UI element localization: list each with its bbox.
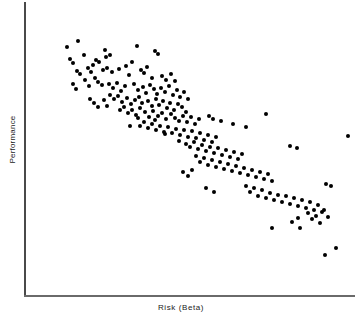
data-point [208, 145, 212, 149]
data-point [144, 91, 148, 95]
data-point [190, 129, 194, 133]
data-point [182, 90, 186, 94]
data-point [74, 87, 78, 91]
data-point [112, 97, 116, 101]
data-point [232, 150, 236, 154]
data-point [105, 66, 109, 70]
data-point [288, 144, 292, 148]
data-point [138, 124, 142, 128]
data-point [125, 96, 129, 100]
data-point [228, 155, 232, 159]
data-point [129, 102, 133, 106]
data-point [244, 184, 248, 188]
data-point [264, 112, 268, 116]
data-point [71, 82, 75, 86]
data-point [150, 104, 154, 108]
data-point [288, 202, 292, 206]
data-point [178, 95, 182, 99]
data-point [100, 83, 104, 87]
data-point [150, 122, 154, 126]
data-point [123, 84, 127, 88]
y-axis-label: Performance [8, 100, 17, 180]
data-point [156, 52, 160, 56]
data-point [166, 125, 170, 129]
data-point [192, 140, 196, 144]
data-point [318, 221, 322, 225]
data-point [280, 200, 284, 204]
data-point [312, 208, 316, 212]
data-point [145, 65, 149, 69]
data-point [182, 128, 186, 132]
data-point [323, 253, 327, 257]
data-point [186, 135, 190, 139]
data-point [165, 106, 169, 110]
data-point [296, 216, 300, 220]
data-point [136, 116, 140, 120]
data-point [256, 194, 260, 198]
data-point [322, 208, 326, 212]
data-point [189, 115, 193, 119]
data-point [92, 101, 96, 105]
data-point [314, 214, 318, 218]
data-point [193, 122, 197, 126]
data-point [76, 39, 80, 43]
data-point [196, 147, 200, 151]
data-point [244, 125, 248, 129]
data-point [270, 179, 274, 183]
data-point [198, 131, 202, 135]
data-point [272, 198, 276, 202]
data-point [111, 86, 115, 90]
data-point [268, 191, 272, 195]
data-point [172, 108, 176, 112]
data-point [97, 60, 101, 64]
data-point [222, 167, 226, 171]
data-point [250, 168, 254, 172]
data-point [164, 78, 168, 82]
data-point [153, 118, 157, 122]
data-point [163, 90, 167, 94]
plot-area [0, 0, 362, 316]
data-point [226, 162, 230, 166]
data-point [133, 98, 137, 102]
data-point [218, 160, 222, 164]
data-point [204, 149, 208, 153]
data-point [167, 84, 171, 88]
data-point [231, 122, 235, 126]
data-point [108, 93, 112, 97]
data-point [151, 109, 155, 113]
data-point [171, 93, 175, 97]
data-point [168, 101, 172, 105]
data-point [159, 86, 163, 90]
data-point [284, 194, 288, 198]
data-point [142, 71, 146, 75]
data-point [214, 165, 218, 169]
data-point [210, 158, 214, 162]
data-point [108, 53, 112, 57]
data-point [324, 182, 328, 186]
data-point [130, 60, 134, 64]
data-point [105, 104, 109, 108]
data-point [136, 88, 140, 92]
data-point [329, 184, 333, 188]
data-point [290, 220, 294, 224]
data-point [202, 156, 206, 160]
data-point [122, 105, 126, 109]
data-point [169, 72, 173, 76]
data-point [200, 143, 204, 147]
data-point [82, 53, 86, 57]
data-point [180, 105, 184, 109]
data-point [184, 110, 188, 114]
data-point [346, 134, 350, 138]
data-point [118, 108, 122, 112]
data-point [87, 84, 91, 88]
data-point [170, 131, 174, 135]
data-point [212, 190, 216, 194]
data-point [142, 120, 146, 124]
data-point [211, 117, 215, 121]
data-point [276, 193, 280, 197]
data-point [173, 79, 177, 83]
data-point [206, 133, 210, 137]
data-point [78, 72, 82, 76]
data-point [212, 151, 216, 155]
data-point [128, 124, 132, 128]
